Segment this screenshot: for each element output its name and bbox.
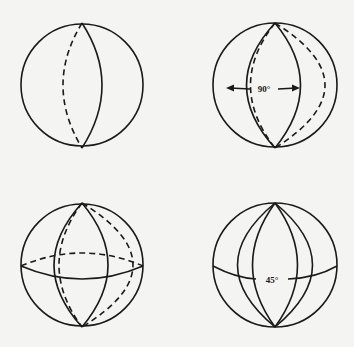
equator-left xyxy=(213,266,256,279)
sphere-outline xyxy=(21,24,143,146)
sphere-top-left xyxy=(21,23,143,148)
sphere-outline xyxy=(213,23,337,147)
front-meridian-right xyxy=(275,23,301,148)
sphere-bottom-right: 45° xyxy=(213,203,337,327)
front-meridian-left xyxy=(54,203,82,327)
arrowhead-right-icon xyxy=(292,85,300,92)
angle-label-90: 90° xyxy=(258,84,271,94)
equator-back xyxy=(21,253,143,266)
front-meridian xyxy=(82,23,102,148)
back-meridian-left xyxy=(59,203,82,327)
front-meridian-right xyxy=(82,203,108,327)
equator-front xyxy=(21,266,143,279)
meridian-4 xyxy=(275,203,313,327)
arrowhead-left-icon xyxy=(226,85,234,92)
sphere-outline xyxy=(21,204,143,326)
sphere-top-right: 90° xyxy=(213,23,337,148)
sphere-bottom-left xyxy=(21,203,143,327)
sphere-outline xyxy=(213,203,337,327)
back-meridian xyxy=(63,23,82,148)
meridian-1 xyxy=(238,203,276,327)
angle-label-45: 45° xyxy=(266,275,279,285)
spheres-diagram: 90° 45° xyxy=(0,0,354,347)
